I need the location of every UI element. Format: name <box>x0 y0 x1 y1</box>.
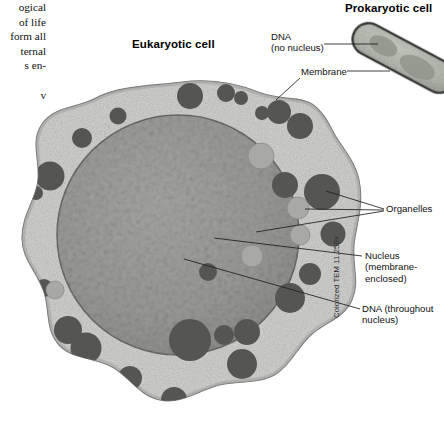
organelle <box>72 128 92 148</box>
organelle <box>199 263 217 281</box>
organelle <box>36 162 65 191</box>
leader-membrane-cell <box>276 78 300 100</box>
eukaryotic-cell-micrograph <box>22 81 361 413</box>
cell-membrane-outline <box>22 81 361 401</box>
organelle <box>217 84 235 102</box>
organelles-group <box>29 83 346 413</box>
callout-organelles: Organelles <box>386 203 432 214</box>
callout-dna-eukaryotic: DNA (throughout nucleus) <box>362 303 444 326</box>
organelle <box>275 283 305 313</box>
eukaryotic-cell-heading: Eukaryotic cell <box>132 38 215 50</box>
organelle <box>54 316 82 344</box>
organelle <box>255 106 269 120</box>
body-text-column: ogical of life form all ternal s en- v <box>0 0 46 103</box>
vesicle <box>290 225 310 245</box>
bacterium-body <box>347 18 444 99</box>
callout-dna-prokaryotic-line1: DNA <box>271 31 324 42</box>
nucleoid-region <box>396 50 439 85</box>
organelle <box>177 83 203 109</box>
callout-membrane: Membrane <box>301 66 347 77</box>
nucleus <box>57 115 299 355</box>
organelle <box>29 186 43 200</box>
body-text-line: s en- <box>0 58 46 73</box>
vesicle <box>46 281 64 299</box>
callout-nucleus-line3: enclosed) <box>365 273 417 284</box>
vesicle <box>241 245 263 267</box>
organelle <box>214 325 234 345</box>
organelle <box>227 349 257 379</box>
callout-dna-prokaryotic: DNA (no nucleus) <box>271 31 324 54</box>
leader-organelles <box>256 211 384 232</box>
organelle <box>169 319 211 361</box>
organelle <box>272 172 298 198</box>
prokaryotic-cell-micrograph <box>347 18 444 99</box>
light-vesicles-group <box>46 143 310 299</box>
vesicle <box>287 197 309 219</box>
callout-nucleus: Nucleus (membrane- enclosed) <box>365 250 417 284</box>
body-text-line: form all <box>0 29 46 44</box>
organelle <box>35 279 53 297</box>
vesicle <box>248 143 274 169</box>
callout-nucleus-line1: Nucleus <box>365 250 417 261</box>
micrograph-credit: Colorized TEM 11,250× <box>332 222 341 318</box>
leader-organelles <box>326 191 384 209</box>
organelle <box>299 263 321 285</box>
organelle <box>287 113 313 139</box>
organelle <box>71 333 102 364</box>
organelle <box>234 91 248 105</box>
body-text-gap <box>0 73 46 88</box>
body-text-line: ogical <box>0 0 46 15</box>
organelle <box>118 366 142 390</box>
organelle <box>234 319 260 345</box>
body-text-line: ternal <box>0 44 46 59</box>
leader-lines <box>184 44 390 309</box>
organelle <box>304 174 340 210</box>
organelle <box>110 108 127 125</box>
callout-nucleus-line2: (membrane- <box>365 261 417 272</box>
body-text-trailing-line: v <box>0 88 46 103</box>
nucleoid-region <box>366 31 401 61</box>
organelle <box>161 387 187 413</box>
callout-dna-prokaryotic-line2: (no nucleus) <box>271 42 324 53</box>
prokaryotic-cell-heading: Prokaryotic cell <box>345 2 432 14</box>
leader-organelles <box>305 209 384 210</box>
figure-artwork <box>0 0 444 422</box>
organelle <box>267 100 291 124</box>
body-text-line: of life <box>0 15 46 30</box>
